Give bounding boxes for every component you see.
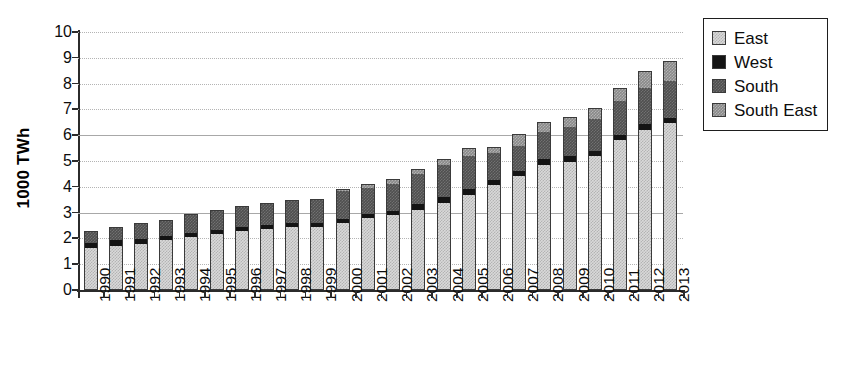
x-tick-mark	[103, 291, 105, 298]
legend-item[interactable]: East	[712, 26, 817, 50]
bar-segment-south-east	[563, 117, 577, 127]
legend-item-label: East	[734, 30, 768, 47]
stacked-bar-chart: 1000 TWh 012345678910 199019911992199319…	[0, 0, 855, 365]
bar-segment-south	[437, 165, 451, 197]
bar-segment-south	[134, 223, 148, 238]
bar-segment-east	[663, 123, 677, 290]
bar-column[interactable]	[638, 71, 652, 290]
bar-segment-south	[537, 132, 551, 159]
x-tick-mark	[254, 291, 256, 298]
bar-segment-south	[260, 203, 274, 225]
x-tick-mark	[280, 291, 282, 298]
x-tick-mark	[355, 291, 357, 298]
gridline	[78, 58, 683, 60]
y-tick-label: 6	[42, 127, 72, 143]
bar-segment-south-east	[588, 108, 602, 120]
x-tick-mark	[330, 291, 332, 298]
y-axis-title: 1000 TWh	[14, 98, 34, 238]
bar-segment-south	[411, 174, 425, 204]
x-tick-mark	[229, 291, 231, 298]
south-swatch-icon	[712, 79, 726, 93]
x-tick-mark	[431, 291, 433, 298]
y-tick-label: 5	[42, 153, 72, 169]
y-tick-label: 8	[42, 76, 72, 92]
bar-segment-south	[487, 153, 501, 180]
y-tick-label: 10	[42, 24, 72, 40]
x-tick-mark	[532, 291, 534, 298]
legend-item-label: South	[734, 78, 778, 95]
x-tick-mark	[154, 291, 156, 298]
bar-segment-south-east	[462, 148, 476, 156]
y-axis-ticks: 012345678910	[38, 32, 72, 290]
bar-segment-south-east	[663, 61, 677, 80]
y-tick-label: 4	[42, 179, 72, 195]
y-tick-label: 2	[42, 230, 72, 246]
x-tick-mark	[582, 291, 584, 298]
x-tick-mark	[633, 291, 635, 298]
x-tick-mark	[78, 291, 80, 298]
y-tick-label: 7	[42, 101, 72, 117]
bar-segment-south	[663, 81, 677, 118]
x-tick-mark	[204, 291, 206, 298]
bar-segment-south-east	[638, 71, 652, 88]
legend-item-label: West	[734, 54, 772, 71]
x-tick-mark	[557, 291, 559, 298]
west-swatch-icon	[712, 55, 726, 69]
south-east-swatch-icon	[712, 103, 726, 117]
gridline	[78, 32, 683, 34]
east-swatch-icon	[712, 31, 726, 45]
bar-segment-east	[638, 130, 652, 290]
x-tick-mark	[179, 291, 181, 298]
bar-segment-south	[462, 156, 476, 190]
y-tick-label: 9	[42, 50, 72, 66]
legend-item-label: South East	[734, 102, 817, 119]
bar-segment-south	[512, 146, 526, 171]
bar-column[interactable]	[537, 122, 551, 290]
bar-segment-south	[613, 101, 627, 135]
bar-segment-south-east	[613, 88, 627, 101]
x-tick-mark	[406, 291, 408, 298]
y-tick-label: 0	[42, 282, 72, 298]
plot-area	[78, 32, 683, 290]
bar-segment-south	[109, 227, 123, 241]
legend-item[interactable]: West	[712, 50, 817, 74]
x-tick-mark	[507, 291, 509, 298]
bar-segment-south-east	[537, 122, 551, 132]
bar-segment-south	[159, 220, 173, 236]
x-tick-mark	[381, 291, 383, 298]
x-tick-mark	[128, 291, 130, 298]
bar-column[interactable]	[588, 108, 602, 290]
bar-segment-south	[386, 184, 400, 211]
bar-segment-south	[336, 191, 350, 218]
legend-item[interactable]: South	[712, 74, 817, 98]
bar-segment-south	[361, 188, 375, 214]
bar-segment-south	[184, 214, 198, 233]
gridline	[78, 84, 683, 86]
bar-segment-south-east	[512, 134, 526, 146]
chart-legend: EastWestSouthSouth East	[703, 18, 828, 131]
bar-segment-south	[235, 206, 249, 227]
bar-segment-south	[84, 231, 98, 243]
x-tick-mark	[683, 291, 685, 298]
x-tick-mark	[607, 291, 609, 298]
bar-segment-south	[285, 200, 299, 223]
x-tick-mark	[456, 291, 458, 298]
y-tick-label: 3	[42, 205, 72, 221]
y-tick-label: 1	[42, 256, 72, 272]
bar-segment-south	[638, 88, 652, 124]
x-tick-mark	[658, 291, 660, 298]
bar-segment-south	[588, 119, 602, 150]
bar-column[interactable]	[563, 117, 577, 290]
bar-column[interactable]	[663, 61, 677, 290]
legend-item[interactable]: South East	[712, 98, 817, 122]
bar-segment-south	[310, 199, 324, 223]
x-tick-mark	[305, 291, 307, 298]
bar-column[interactable]	[613, 88, 627, 290]
bar-segment-south	[210, 210, 224, 230]
bar-segment-south	[563, 127, 577, 155]
x-tick-mark	[481, 291, 483, 298]
